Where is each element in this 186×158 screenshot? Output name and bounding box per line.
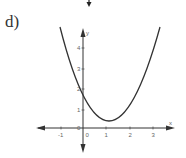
x-tick-3: 3: [152, 132, 156, 138]
x-axis: [36, 126, 175, 131]
x-tick-1: 1: [105, 132, 109, 138]
x-tick-2: 2: [129, 132, 133, 138]
y-axis-label: y: [86, 30, 89, 36]
x-axis-label: x: [169, 120, 172, 126]
parabola-plot: -1 0 1 2 3 x 0 1 2 3 4 y: [0, 0, 186, 158]
x-tick-neg1: -1: [58, 132, 64, 138]
top-arrow-fragment: [87, 0, 92, 7]
parabola-curve: [60, 27, 160, 121]
y-tick-4: 4: [77, 45, 81, 51]
y-tick-3: 3: [77, 66, 81, 72]
y-tick-1: 1: [77, 107, 81, 113]
x-tick-0: 0: [86, 132, 90, 138]
